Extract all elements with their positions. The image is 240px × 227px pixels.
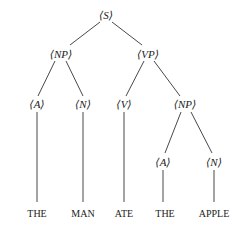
node-a-object: ⟨A⟩ [155,156,170,169]
leaf-the-1: THE [27,208,46,219]
leaf-man: MAN [71,208,94,219]
node-v: ⟨V⟩ [116,98,131,111]
node-a: ⟨A⟩ [29,98,44,111]
node-np-object: ⟨NP⟩ [174,98,197,111]
parse-tree-diagram: ⟨S⟩ ⟨NP⟩ ⟨VP⟩ ⟨A⟩ ⟨N⟩ ⟨V⟩ ⟨NP⟩ ⟨A⟩ ⟨N⟩ T… [0,0,240,227]
node-np: ⟨NP⟩ [50,48,73,61]
leaf-the-2: THE [155,208,174,219]
node-n: ⟨N⟩ [75,98,91,111]
tree-edges [0,0,240,227]
leaf-ate: ATE [115,208,133,219]
leaf-apple: APPLE [199,208,230,219]
node-n-object: ⟨N⟩ [206,156,222,169]
node-s: ⟨S⟩ [99,9,113,22]
node-vp: ⟨VP⟩ [137,48,159,61]
